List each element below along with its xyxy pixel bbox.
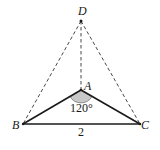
side-BC-label: 2 (78, 125, 84, 139)
point-A (80, 89, 83, 92)
point-B (22, 123, 24, 125)
label-D: D (77, 4, 87, 18)
label-A: A (83, 79, 92, 93)
label-B: B (12, 118, 20, 132)
label-C: C (141, 118, 150, 132)
angle-label: 120° (70, 101, 93, 115)
point-D (80, 20, 83, 23)
geometry-diagram: D A B C 120° 2 (0, 0, 160, 150)
